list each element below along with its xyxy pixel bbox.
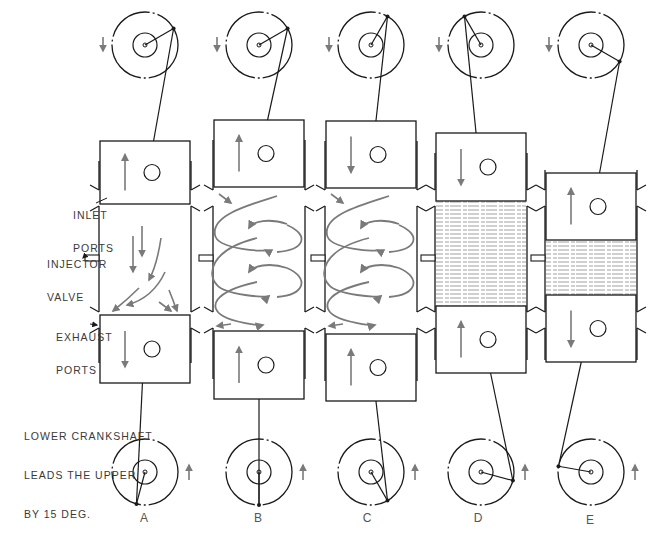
exhaust-port — [191, 328, 200, 333]
upper-crankshaft — [439, 12, 514, 78]
upper-crankshaft — [549, 12, 624, 78]
inlet-port — [305, 185, 314, 190]
inlet-port — [536, 185, 545, 190]
stage-label-d: D — [468, 511, 488, 525]
exhaust-port — [305, 328, 314, 333]
stage-label-e: E — [580, 513, 600, 527]
exhaust-ports-label: EXHAUST PORTS — [56, 310, 113, 387]
lower-piston — [100, 315, 190, 383]
stage-label-c: C — [357, 511, 377, 525]
stage-e — [531, 12, 646, 505]
lower-connecting-rod — [376, 401, 388, 501]
exhaust-port — [204, 307, 213, 312]
injector-valve-label: INJECTOR VALVE — [47, 237, 107, 314]
inlet-port — [637, 206, 646, 211]
lower-crankshaft — [557, 439, 635, 505]
inlet-port — [305, 206, 314, 211]
exhaust-port — [536, 307, 545, 312]
exhaust-port — [527, 307, 536, 312]
airflow-arrows — [212, 194, 301, 326]
upper-connecting-rod — [376, 16, 388, 121]
inlet-port — [191, 206, 200, 211]
exhaust-port — [637, 328, 646, 333]
stage-d — [421, 12, 536, 505]
compressed-charge — [546, 240, 636, 295]
inlet-port — [637, 185, 646, 190]
airflow-arrows — [324, 194, 413, 326]
inlet-port — [204, 185, 213, 190]
upper-piston — [436, 133, 526, 201]
exhaust-port — [426, 328, 435, 333]
injector-valve — [311, 255, 325, 261]
injector-valve — [421, 255, 435, 261]
upper-piston — [546, 173, 636, 240]
stage-c — [311, 12, 426, 505]
inlet-port — [417, 206, 426, 211]
lower-piston — [326, 334, 416, 401]
exhaust-port — [191, 307, 200, 312]
upper-piston — [326, 121, 416, 188]
exhaust-port — [305, 307, 314, 312]
lower-crankshaft — [226, 439, 303, 507]
inlet-port — [204, 206, 213, 211]
exhaust-port — [316, 328, 325, 333]
lower-piston — [546, 295, 636, 362]
upper-connecting-rod — [600, 62, 620, 174]
inlet-port — [527, 185, 536, 190]
inlet-port — [426, 206, 435, 211]
lower-piston — [214, 331, 304, 399]
inlet-port — [536, 206, 545, 211]
stage-label-b: B — [248, 511, 268, 525]
injector-valve — [199, 255, 213, 261]
lower-crankshaft — [448, 439, 525, 505]
exhaust-port — [637, 307, 646, 312]
lower-piston — [436, 306, 526, 373]
exhaust-port — [316, 307, 325, 312]
stage-label-a: A — [134, 511, 154, 525]
exhaust-port — [426, 307, 435, 312]
upper-crankshaft — [329, 12, 404, 78]
exhaust-port — [536, 328, 545, 333]
exhaust-port — [527, 328, 536, 333]
stage-b — [199, 12, 314, 507]
compressed-charge — [436, 201, 526, 306]
inlet-port — [426, 185, 435, 190]
exhaust-port — [417, 328, 426, 333]
inlet-port — [417, 185, 426, 190]
exhaust-port — [204, 328, 213, 333]
exhaust-port — [417, 307, 426, 312]
injector-valve — [531, 255, 545, 261]
lower-connecting-rod — [559, 362, 582, 466]
airflow-arrows — [113, 226, 177, 311]
inlet-port — [316, 185, 325, 190]
lower-crankshaft — [338, 439, 415, 505]
upper-crankshaft — [217, 12, 292, 78]
upper-piston — [214, 120, 304, 187]
inlet-port — [527, 206, 536, 211]
inlet-port — [191, 185, 200, 190]
inlet-port — [316, 206, 325, 211]
lower-connecting-rod — [491, 373, 513, 481]
